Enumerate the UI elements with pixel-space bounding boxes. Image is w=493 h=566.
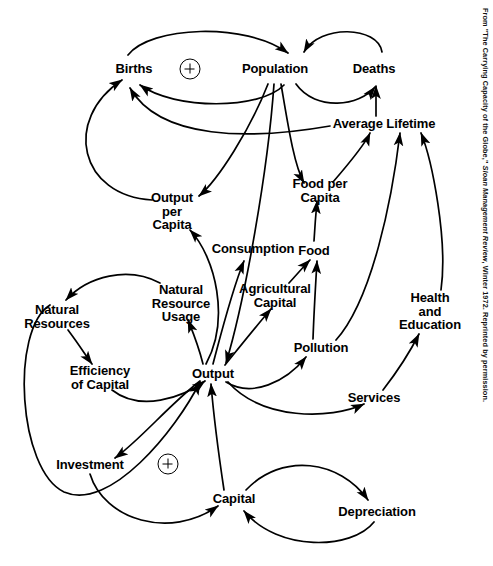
node-agricultural-capital-line-2: Capital	[254, 294, 297, 309]
node-deaths[interactable]: Deaths	[353, 62, 396, 76]
node-efficiency-of-capital[interactable]: Efficiencyof Capital	[70, 364, 130, 391]
node-health-and-education-line-3: Education	[399, 317, 461, 332]
edge-deaths-to-population	[304, 32, 382, 52]
edge-population-to-output-per-capita	[199, 84, 268, 196]
node-output[interactable]: Output	[192, 367, 234, 381]
edge-food-to-food-per-capita	[314, 201, 317, 241]
polarity-plus-population-loop	[180, 59, 201, 80]
source-credit-suffix: , Winter 1972. Reprinted by permission.	[481, 262, 490, 403]
edge-output-to-investment	[115, 381, 200, 458]
node-population[interactable]: Population	[242, 62, 308, 76]
node-services[interactable]: Services	[348, 391, 401, 405]
edge-services-to-health-and-education	[383, 334, 419, 390]
edge-output-to-pollution	[226, 357, 306, 388]
edge-population-to-output	[226, 84, 274, 363]
edge-births-to-population	[128, 31, 288, 55]
edge-natural-resource-usage-to-natural-resources	[66, 275, 160, 300]
node-consumption[interactable]: Consumption	[212, 242, 295, 256]
edge-output-to-services	[228, 382, 364, 414]
node-output-per-capita[interactable]: OutputperCapita	[151, 191, 193, 232]
node-food[interactable]: Food	[298, 244, 329, 258]
source-credit-journal: Sloan Management Review	[481, 166, 490, 262]
edge-output-to-agricultural-capital	[225, 309, 271, 365]
node-investment[interactable]: Investment	[56, 458, 124, 472]
node-natural-resources-line-2: Resources	[24, 315, 90, 330]
node-efficiency-of-capital-line-2: of Capital	[71, 376, 129, 391]
node-depreciation[interactable]: Depreciation	[338, 505, 416, 519]
node-food-per-capita[interactable]: Food perCapita	[293, 177, 348, 204]
node-average-lifetime[interactable]: Average Lifetime	[333, 117, 436, 131]
edge-population-to-food-per-capita	[281, 84, 304, 183]
figure-canvas: Births Population Deaths Average Lifetim…	[0, 0, 493, 566]
edge-capital-to-output	[211, 384, 224, 490]
node-pollution[interactable]: Pollution	[294, 341, 349, 355]
node-natural-resource-usage-line-3: Usage	[162, 309, 201, 324]
edge-output-per-capita-to-births	[86, 80, 152, 200]
edge-output-to-natural-resource-usage	[188, 320, 203, 364]
edge-population-to-deaths	[296, 84, 375, 103]
source-credit-prefix: From "The Carrying Capacity of the Globe…	[481, 8, 490, 166]
node-agricultural-capital[interactable]: AgriculturalCapital	[239, 282, 311, 309]
node-natural-resource-usage[interactable]: NaturalResourceUsage	[152, 283, 210, 324]
edge-population-to-births	[140, 85, 284, 104]
node-natural-resources[interactable]: NaturalResources	[24, 303, 90, 330]
edge-investment-to-capital	[90, 474, 218, 523]
source-credit: From "The Carrying Capacity of the Globe…	[480, 8, 490, 402]
edge-pollution-to-average-lifetime	[336, 133, 400, 340]
node-births[interactable]: Births	[116, 62, 153, 76]
node-output-per-capita-line-3: Capita	[152, 217, 191, 232]
edge-capital-to-depreciation	[246, 465, 368, 500]
edge-natural-resources-to-efficiency-of-capital	[68, 330, 92, 364]
node-food-per-capita-line-2: Capita	[300, 189, 339, 204]
edge-pollution-to-food	[313, 261, 317, 339]
polarity-plus-capital-loop	[158, 454, 179, 475]
edge-health-and-education-to-average-lifetime	[421, 133, 443, 290]
node-capital[interactable]: Capital	[213, 492, 256, 506]
node-health-and-education[interactable]: HealthandEducation	[399, 291, 461, 332]
